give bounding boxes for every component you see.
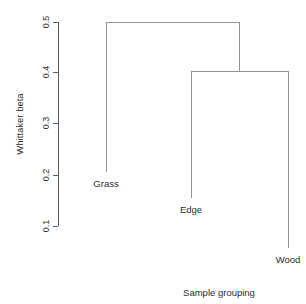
y-tick-label-4: 0.1 [41, 220, 51, 233]
y-tick-label-2: 0.3 [41, 117, 51, 130]
leaf-label-grass: Grass [93, 178, 119, 189]
y-tick-label-3: 0.2 [41, 169, 51, 182]
leaf-label-edge: Edge [180, 204, 202, 215]
y-axis-title: Whittaker beta [14, 93, 25, 155]
dendrogram-plot: 0.5 0.4 0.3 0.2 0.1 Whittaker beta Sampl… [0, 0, 306, 304]
x-axis-title: Sample grouping [183, 287, 255, 298]
y-tick-label-1: 0.4 [41, 66, 51, 79]
y-tick-label-0: 0.5 [41, 16, 51, 29]
leaf-label-wood: Wood [276, 254, 301, 265]
